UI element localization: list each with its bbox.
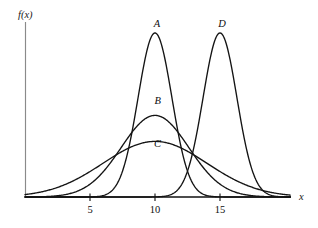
curve-label-B: B	[154, 95, 161, 106]
curve-C	[25, 141, 290, 195]
curve-labels-group: ABCD	[153, 18, 226, 149]
curve-label-A: A	[153, 18, 161, 29]
density-curves-chart: 51015 ABCD f(x) x	[0, 0, 318, 228]
chart-figure: 51015 ABCD f(x) x	[0, 0, 318, 228]
x-tick-label-5: 5	[87, 204, 92, 215]
x-tick-label-15: 15	[215, 204, 226, 215]
curve-label-D: D	[217, 18, 226, 29]
curve-label-C: C	[154, 138, 162, 149]
x-tick-label-10: 10	[150, 204, 161, 215]
axes-group	[25, 22, 291, 197]
y-axis-label: f(x)	[18, 9, 33, 21]
x-axis-label: x	[298, 191, 304, 202]
curve-paths-group	[25, 33, 290, 197]
